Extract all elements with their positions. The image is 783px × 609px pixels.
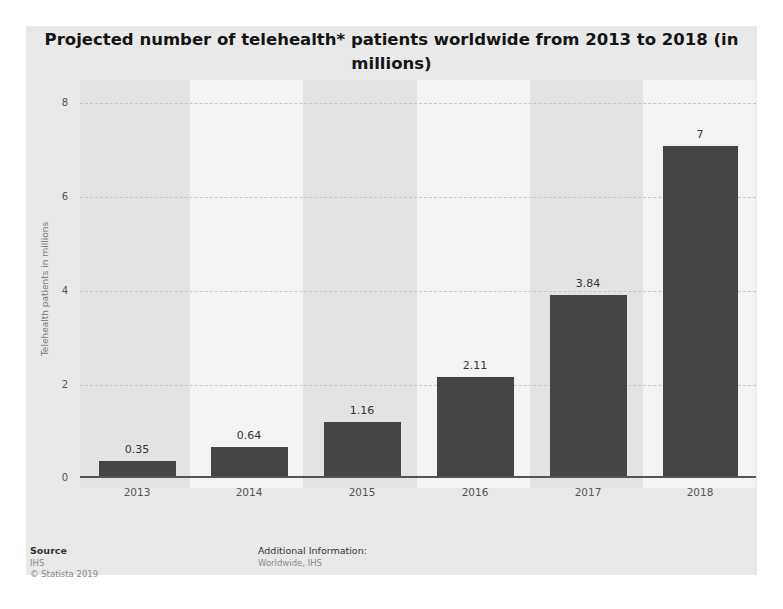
x-tick: 2015 <box>322 486 402 498</box>
bar-2015 <box>324 422 401 477</box>
bar-2016 <box>437 377 514 477</box>
value-label: 7 <box>660 128 740 142</box>
x-axis-line <box>80 476 756 478</box>
value-label: 2.11 <box>435 359 515 373</box>
copyright[interactable]: © Statista 2019 <box>30 569 98 579</box>
gridline-2 <box>80 385 756 386</box>
y-tick: 2 <box>52 379 68 391</box>
y-tick: 0 <box>52 472 68 484</box>
additional-info-heading: Additional Information: <box>258 545 367 556</box>
bar-2017 <box>550 295 627 477</box>
value-label: 0.64 <box>209 429 289 443</box>
column-band <box>80 80 190 488</box>
gridline-6 <box>80 197 756 198</box>
gridline-8 <box>80 103 756 104</box>
additional-info-text: Worldwide, IHS <box>258 558 322 568</box>
value-label: 3.84 <box>548 277 628 291</box>
x-tick: 2016 <box>435 486 515 498</box>
value-label: 1.16 <box>322 404 402 418</box>
bar-2014 <box>211 447 288 477</box>
bar-2018 <box>663 146 738 477</box>
value-label: 0.35 <box>97 443 177 457</box>
x-tick: 2013 <box>97 486 177 498</box>
x-tick: 2017 <box>548 486 628 498</box>
column-band <box>190 80 303 488</box>
y-axis-label: Telehealth patients in millions <box>40 222 50 356</box>
x-tick: 2014 <box>209 486 289 498</box>
y-tick: 8 <box>52 97 68 109</box>
bar-2013 <box>99 461 176 477</box>
y-tick: 6 <box>52 191 68 203</box>
source-name: IHS <box>30 558 44 568</box>
chart-title: Projected number of telehealth* patients… <box>26 28 757 76</box>
x-tick: 2018 <box>660 486 740 498</box>
gridline-4 <box>80 291 756 292</box>
y-tick: 4 <box>52 285 68 297</box>
source-heading: Source <box>30 545 67 556</box>
